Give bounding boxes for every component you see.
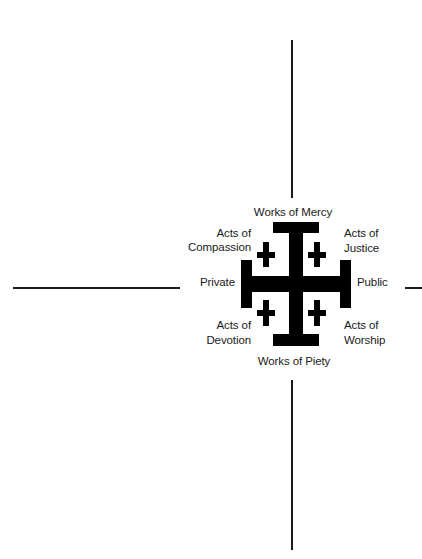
axis-line-bottom [291,380,293,550]
cross-right-bar [340,260,351,308]
label-acts-of: Acts of [170,319,251,332]
label-justice: Justice [344,242,379,255]
label-works-of-piety: Works of Piety [244,355,344,368]
label-acts-of: Acts of [170,227,251,240]
axis-line-right [405,287,422,289]
label-works-of-mercy: Works of Mercy [243,206,343,219]
label-public: Public [357,276,388,289]
label-private: Private [184,276,235,289]
axis-line-top [291,40,293,198]
label-acts-of: Acts of [344,319,378,332]
label-devotion: Devotion [170,334,251,347]
label-acts-of: Acts of [344,227,378,240]
label-worship: Worship [344,334,385,347]
label-compassion: Compassion [170,241,251,254]
cross-horizontal-arm [241,276,351,292]
cross-left-bar [241,260,252,308]
axis-line-left [13,287,180,289]
